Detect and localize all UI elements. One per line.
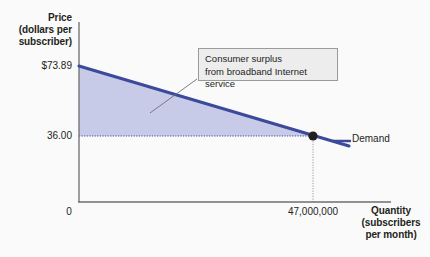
y-tick-label-73-89: $73.89 xyxy=(0,60,72,72)
chart-figure: Price (dollars per subscriber) $73.89 36… xyxy=(0,0,430,257)
equilibrium-point-marker xyxy=(308,131,317,140)
x-tick-label-47000000: 47,000,000 xyxy=(268,206,358,218)
x-axis-title: Quantity (subscribers per month) xyxy=(352,205,430,240)
consumer-surplus-callout-box: Consumer surplus from broadband Internet… xyxy=(198,48,338,81)
y-axis-title: Price (dollars per subscriber) xyxy=(0,12,72,47)
y-tick-label-36-00: 36.00 xyxy=(0,130,72,142)
demand-curve-label: Demand xyxy=(352,133,390,145)
origin-label: 0 xyxy=(62,206,76,218)
consumer-surplus-callout-text: Consumer surplus from broadband Internet… xyxy=(205,53,337,91)
